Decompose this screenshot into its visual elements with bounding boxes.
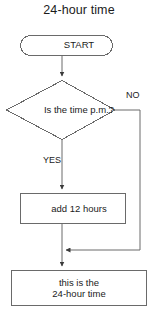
start-node-shape [21,36,113,56]
flowchart-diagram: 24-hour time START Is the time p.m.? add… [0,0,158,310]
end-node-shape [12,271,147,306]
process-node-shape [21,194,126,224]
branch-label-yes: YES [43,155,61,165]
branch-label-no: NO [126,90,140,100]
flowchart-canvas [0,0,158,310]
decision-node-shape [7,81,116,140]
edge-decision-no-to-merge [115,110,140,250]
